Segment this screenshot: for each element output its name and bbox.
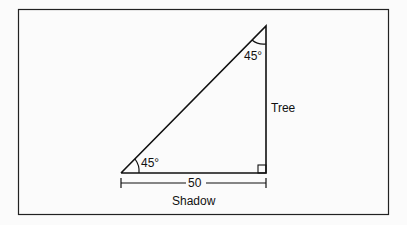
bottom-angle-label: 45° xyxy=(141,157,159,169)
triangle-diagram xyxy=(0,0,407,225)
top-angle-label: 45° xyxy=(244,50,262,62)
length-label: 50 xyxy=(188,177,201,189)
shadow-label: Shadow xyxy=(172,195,215,207)
top-angle-arc xyxy=(252,40,266,44)
right-angle-marker xyxy=(258,165,266,173)
frame-border xyxy=(19,10,389,215)
bottom-angle-arc xyxy=(135,159,139,173)
tree-label: Tree xyxy=(271,102,295,114)
